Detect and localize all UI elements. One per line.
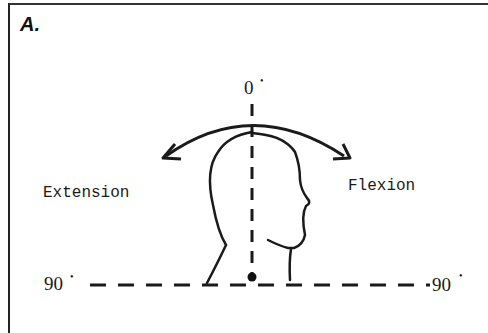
angle-value-left: 90 xyxy=(44,273,63,294)
degree-symbol-top: • xyxy=(260,76,264,86)
motion-arc-icon xyxy=(166,126,344,157)
angle-value-top: 0 xyxy=(244,77,254,98)
head-profile-icon xyxy=(207,132,309,283)
angle-label-top: 0 xyxy=(244,77,254,99)
degree-symbol-right: • xyxy=(459,271,463,281)
angle-value-right: 90 xyxy=(432,274,451,295)
flexion-label: Flexion xyxy=(348,177,415,195)
angle-label-right: 90 xyxy=(432,274,451,296)
pivot-dot-icon xyxy=(248,273,257,282)
extension-label: Extension xyxy=(43,184,129,202)
angle-label-left: 90 xyxy=(44,273,63,295)
neck-front-icon xyxy=(290,249,291,280)
degree-symbol-left: • xyxy=(70,272,74,282)
